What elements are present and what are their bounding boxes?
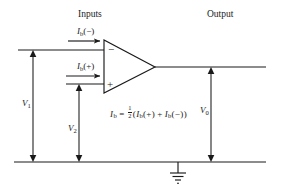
eq-equals: =: [117, 109, 127, 119]
circuit-schematic: [0, 0, 282, 192]
opamp-bias-current-figure: Inputs Output Ib(−) Ib(+) − + V1 V2 V0 I…: [0, 0, 282, 192]
bias-current-equation: Ib=12(Ib(+)+Ib(−)): [110, 105, 187, 120]
v0-label: V0: [200, 106, 209, 116]
v2-label: V2: [68, 124, 77, 134]
bias-current-minus-label: Ib(−): [77, 27, 94, 37]
output-heading: Output: [207, 10, 233, 20]
bias-plus-arg: (+): [83, 61, 94, 71]
ground-symbol-icon: [170, 173, 186, 183]
eq-term2-arg: (−): [171, 109, 183, 119]
v2-subscript: 2: [74, 127, 77, 134]
bias-current-plus-label: Ib(+): [77, 62, 94, 72]
eq-plus: +: [155, 109, 164, 119]
v1-label: V1: [22, 99, 31, 109]
eq-close-paren: ): [184, 109, 187, 119]
v0-subscript: 0: [206, 109, 209, 116]
noninverting-terminal-label: +: [107, 79, 113, 90]
eq-fraction-numerator: 1: [128, 105, 133, 112]
inverting-terminal-label: −: [108, 44, 114, 55]
eq-fraction-denominator: 2: [128, 112, 133, 120]
eq-term1-arg: (+): [143, 109, 155, 119]
bias-minus-arg: (−): [83, 26, 94, 36]
v2-measure-arrow: [76, 84, 83, 162]
inputs-heading: Inputs: [78, 10, 102, 20]
eq-one-half-fraction: 12: [128, 105, 133, 119]
v1-subscript: 1: [28, 102, 31, 109]
